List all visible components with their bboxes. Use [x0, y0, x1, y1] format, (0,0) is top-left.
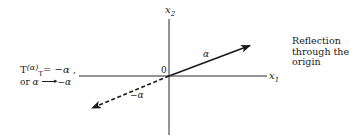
eq-map-rhs: −α: [58, 77, 72, 87]
eq-T: T: [20, 64, 27, 75]
x2-axis-label: x2: [165, 5, 175, 18]
eq-or: or: [20, 77, 30, 87]
caption-line-1: Reflection: [292, 36, 349, 47]
eq-rhs: = −α ,: [43, 64, 76, 75]
eq-map-lhs: α: [33, 77, 39, 87]
x1-axis-label: x1: [269, 71, 279, 84]
neg-alpha-label: −α: [130, 91, 144, 100]
mapping-arrow-icon: ▸: [42, 77, 58, 85]
x1-subscript: 1: [275, 76, 279, 84]
x2-subscript: 2: [171, 10, 175, 18]
transformation-equation: T(α)T= −α ,: [20, 65, 76, 75]
reflection-caption: Reflection through the origin: [292, 36, 349, 68]
eq-arg: (α): [27, 63, 39, 72]
alpha-label: α: [203, 50, 209, 59]
caption-line-3: origin: [292, 57, 349, 68]
mapping-notation: or α ▸ −α: [20, 77, 71, 87]
alpha-vector: [169, 46, 250, 77]
origin-label: 0: [161, 66, 167, 75]
